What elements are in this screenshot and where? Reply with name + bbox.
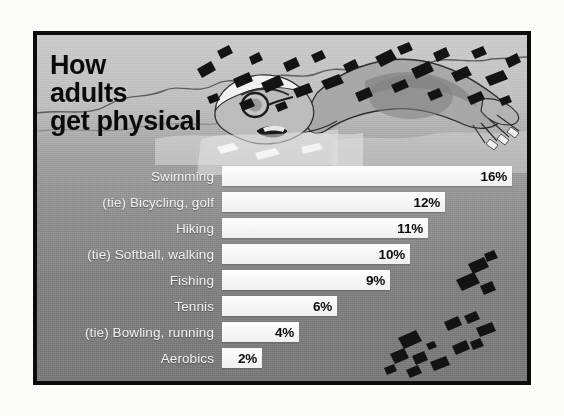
table-row: Fishing 9% xyxy=(37,270,527,290)
table-row: (tie) Bowling, running 4% xyxy=(37,322,527,342)
bar-value: 11% xyxy=(397,221,423,236)
bar-label: Swimming xyxy=(37,169,222,184)
bar-label: Fishing xyxy=(37,273,222,288)
bar-value: 12% xyxy=(414,195,440,210)
page-title: How adults get physical xyxy=(50,51,201,135)
infographic-panel: How adults get physical Swimming 16% (ti… xyxy=(33,31,531,385)
bar-label: (tie) Bowling, running xyxy=(37,325,222,340)
bar: 4% xyxy=(222,322,299,342)
bar-value: 4% xyxy=(275,325,294,340)
bar: 9% xyxy=(222,270,390,290)
bar-value: 2% xyxy=(238,351,257,366)
table-row: Swimming 16% xyxy=(37,166,527,186)
page-root: How adults get physical Swimming 16% (ti… xyxy=(0,0,564,416)
bar-value: 6% xyxy=(313,299,332,314)
bar-label: Aerobics xyxy=(37,351,222,366)
bar-value: 10% xyxy=(379,247,405,262)
table-row: Hiking 11% xyxy=(37,218,527,238)
table-row: (tie) Bicycling, golf 12% xyxy=(37,192,527,212)
swimmer-icon xyxy=(197,35,527,175)
bar-value: 16% xyxy=(481,169,507,184)
bar-chart: Swimming 16% (tie) Bicycling, golf 12% H… xyxy=(37,166,527,374)
bar: 6% xyxy=(222,296,337,316)
table-row: (tie) Softball, walking 10% xyxy=(37,244,527,264)
bar-label: (tie) Softball, walking xyxy=(37,247,222,262)
bar-label: Hiking xyxy=(37,221,222,236)
bar-value: 9% xyxy=(366,273,385,288)
bar: 16% xyxy=(222,166,512,186)
bar-label: (tie) Bicycling, golf xyxy=(37,195,222,210)
bar: 11% xyxy=(222,218,428,238)
bar: 10% xyxy=(222,244,410,264)
bar: 12% xyxy=(222,192,445,212)
table-row: Tennis 6% xyxy=(37,296,527,316)
table-row: Aerobics 2% xyxy=(37,348,527,368)
bar: 2% xyxy=(222,348,262,368)
bar-label: Tennis xyxy=(37,299,222,314)
